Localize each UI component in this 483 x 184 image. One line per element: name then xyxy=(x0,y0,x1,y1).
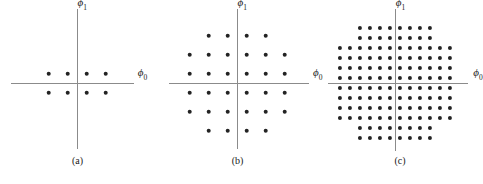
y-axis-label-b: ϕ1 xyxy=(237,0,246,12)
y-axis-label-subscript: 1 xyxy=(243,3,247,12)
constellation-point xyxy=(398,76,402,80)
constellation-point xyxy=(428,76,432,80)
constellation-point xyxy=(368,116,372,120)
constellation-point xyxy=(428,66,432,70)
constellation-point xyxy=(358,86,362,90)
constellation-point xyxy=(388,36,392,40)
constellation-point xyxy=(388,96,392,100)
constellation-point xyxy=(438,86,442,90)
panel-caption-b: (b) xyxy=(155,155,320,166)
constellation-point xyxy=(368,36,372,40)
constellation-point xyxy=(398,56,402,60)
constellation-point xyxy=(428,116,432,120)
constellation-point xyxy=(448,46,452,50)
constellation-point xyxy=(225,71,230,76)
constellation-point xyxy=(428,126,432,130)
constellation-point xyxy=(225,128,230,133)
constellation-point xyxy=(206,90,211,95)
constellation-point xyxy=(398,36,402,40)
constellation-point xyxy=(187,109,192,114)
x-axis-line-c xyxy=(328,83,468,84)
constellation-point xyxy=(244,128,249,133)
constellation-point xyxy=(438,46,442,50)
constellation-point xyxy=(263,33,268,38)
constellation-point xyxy=(408,56,412,60)
constellation-point xyxy=(438,106,442,110)
constellation-point xyxy=(84,90,89,95)
constellation-point xyxy=(378,106,382,110)
constellation-point xyxy=(438,76,442,80)
constellation-point xyxy=(282,71,287,76)
constellation-point xyxy=(388,56,392,60)
constellation-point xyxy=(388,136,392,140)
constellation-point xyxy=(244,90,249,95)
constellation-point xyxy=(388,106,392,110)
constellation-point xyxy=(348,106,352,110)
constellation-point xyxy=(338,86,342,90)
constellation-point xyxy=(418,66,422,70)
constellation-point xyxy=(398,46,402,50)
constellation-point xyxy=(398,126,402,130)
constellation-point xyxy=(408,46,412,50)
constellation-point xyxy=(368,106,372,110)
constellation-point xyxy=(368,46,372,50)
constellation-point xyxy=(358,116,362,120)
constellation-point xyxy=(408,116,412,120)
constellation-point xyxy=(428,136,432,140)
constellation-point xyxy=(428,56,432,60)
y-axis-label-c: ϕ1 xyxy=(396,0,405,12)
constellation-point xyxy=(378,96,382,100)
constellation-point xyxy=(103,71,108,76)
y-axis-line-a xyxy=(77,9,78,150)
constellation-point xyxy=(378,136,382,140)
constellation-point xyxy=(244,109,249,114)
constellation-point xyxy=(206,52,211,57)
constellation-point xyxy=(408,126,412,130)
constellation-point xyxy=(428,26,432,30)
constellation-point xyxy=(368,86,372,90)
constellation-point xyxy=(206,33,211,38)
constellation-point xyxy=(378,26,382,30)
x-axis-line-b xyxy=(169,83,310,84)
constellation-point xyxy=(408,66,412,70)
panel-b: ϕ0ϕ1(b) xyxy=(155,0,320,184)
constellation-point xyxy=(438,56,442,60)
constellation-point xyxy=(408,96,412,100)
constellation-point xyxy=(282,109,287,114)
constellation-point xyxy=(448,86,452,90)
constellation-point xyxy=(187,90,192,95)
constellation-point xyxy=(46,90,51,95)
constellation-point xyxy=(398,66,402,70)
constellation-point xyxy=(418,86,422,90)
constellation-point xyxy=(448,106,452,110)
constellation-point xyxy=(206,71,211,76)
y-axis-label-subscript: 1 xyxy=(401,3,405,12)
constellation-point xyxy=(348,46,352,50)
constellation-point xyxy=(368,96,372,100)
constellation-point xyxy=(418,26,422,30)
constellation-point xyxy=(358,56,362,60)
constellation-point xyxy=(418,126,422,130)
constellation-point xyxy=(263,109,268,114)
constellation-point xyxy=(358,66,362,70)
y-axis-label-subscript: 1 xyxy=(83,3,87,12)
x-axis-label-subscript: 0 xyxy=(479,73,483,82)
constellation-point xyxy=(348,56,352,60)
constellation-point xyxy=(388,46,392,50)
constellation-point xyxy=(398,106,402,110)
constellation-point xyxy=(368,136,372,140)
constellation-point xyxy=(206,128,211,133)
constellation-point xyxy=(348,86,352,90)
constellation-point xyxy=(358,36,362,40)
constellation-point xyxy=(428,86,432,90)
constellation-point xyxy=(378,126,382,130)
constellation-point xyxy=(263,52,268,57)
constellation-point xyxy=(438,96,442,100)
constellation-point xyxy=(358,126,362,130)
y-axis-line-b xyxy=(237,9,238,150)
constellation-point xyxy=(225,33,230,38)
constellation-point xyxy=(408,76,412,80)
constellation-point xyxy=(65,90,70,95)
constellation-point xyxy=(398,96,402,100)
constellation-point xyxy=(244,52,249,57)
